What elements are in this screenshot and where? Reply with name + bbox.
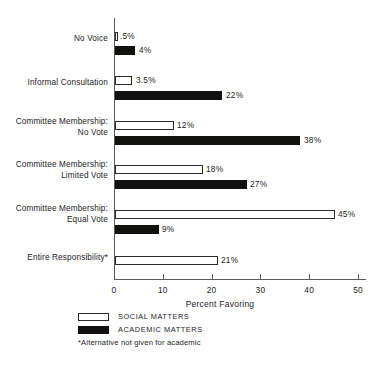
category-label-informal-consultation: Informal Consultation <box>4 78 108 89</box>
x-tick-20 <box>212 274 213 280</box>
x-tick-40 <box>309 274 310 280</box>
x-tick-label-40: 40 <box>304 285 314 295</box>
category-label-committee-no-vote: Committee Membership: No Vote <box>4 117 108 138</box>
bar-value-social-entire-responsibility: 21% <box>221 256 238 265</box>
bar-value-academic-committee-no-vote: 38% <box>304 136 321 145</box>
bar-academic-committee-no-vote <box>115 136 300 145</box>
y-axis-line <box>114 18 115 280</box>
bar-social-committee-equal-vote <box>115 210 335 219</box>
bar-social-no-voice <box>115 32 118 41</box>
bar-academic-informal-consultation <box>115 91 222 100</box>
x-tick-label-10: 10 <box>158 285 168 295</box>
x-tick-label-0: 0 <box>112 285 117 295</box>
x-tick-0 <box>114 274 115 280</box>
category-label-committee-limited-vote: Committee Membership: Limited Vote <box>4 160 108 181</box>
bar-social-entire-responsibility <box>115 256 218 265</box>
bar-value-social-committee-equal-vote: 45% <box>338 210 355 219</box>
plot-area: 0 10 20 30 40 50 .5% 4% 3.5% 22% 12% 38%… <box>114 18 370 280</box>
category-label-no-voice: No Voice <box>4 34 108 45</box>
legend: SOCIAL MATTERS ACADEMIC MATTERS <box>78 311 203 337</box>
legend-label-academic: ACADEMIC MATTERS <box>118 325 203 334</box>
legend-item-academic: ACADEMIC MATTERS <box>78 324 203 335</box>
bar-value-social-no-voice: .5% <box>120 32 135 41</box>
x-tick-50 <box>358 274 359 280</box>
bar-academic-committee-equal-vote <box>115 225 159 234</box>
bar-value-academic-no-voice: 4% <box>139 46 151 55</box>
bar-value-academic-informal-consultation: 22% <box>226 91 243 100</box>
bar-value-academic-committee-equal-vote: 9% <box>162 225 174 234</box>
bar-value-social-informal-consultation: 3.5% <box>136 76 156 85</box>
bar-academic-committee-limited-vote <box>115 180 247 189</box>
bar-value-academic-committee-limited-vote: 27% <box>250 180 267 189</box>
x-axis-line <box>114 279 366 280</box>
category-label-committee-equal-vote: Committee Membership: Equal Vote <box>4 204 108 225</box>
bar-social-committee-limited-vote <box>115 165 203 174</box>
bar-value-social-committee-no-vote: 12% <box>177 121 194 130</box>
legend-item-social: SOCIAL MATTERS <box>78 311 203 322</box>
bar-social-committee-no-vote <box>115 121 174 130</box>
x-tick-label-20: 20 <box>207 285 217 295</box>
legend-label-social: SOCIAL MATTERS <box>118 312 189 321</box>
chart-footnote: *Alternative not given for academic <box>78 338 201 347</box>
x-axis-title: Percent Favoring <box>160 299 280 309</box>
x-tick-30 <box>260 274 261 280</box>
bar-social-informal-consultation <box>115 76 132 85</box>
legend-swatch-social <box>78 313 109 321</box>
x-tick-label-30: 30 <box>256 285 266 295</box>
bar-value-social-committee-limited-vote: 18% <box>206 165 223 174</box>
bar-academic-no-voice <box>115 46 135 55</box>
legend-swatch-academic <box>78 326 109 334</box>
bar-chart: No Voice Informal Consultation Committee… <box>0 0 389 368</box>
category-label-entire-responsibility: Entire Responsibility* <box>4 253 108 264</box>
x-tick-10 <box>163 274 164 280</box>
x-tick-label-50: 50 <box>353 285 363 295</box>
